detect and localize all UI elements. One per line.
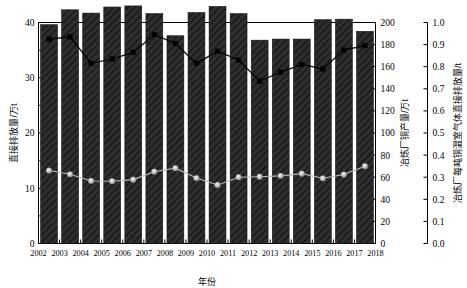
bar-series xyxy=(41,6,374,244)
production-marker xyxy=(321,67,326,72)
y-right2-ticklabel: 0.8 xyxy=(433,62,445,72)
y-axis-right2-title: 冶炼厂每吨铜温室气体直接排放量/t xyxy=(452,63,463,204)
bar xyxy=(251,40,268,243)
x-ticklabel: 2016 xyxy=(325,249,341,258)
y-right1-ticklabel: 20 xyxy=(381,217,391,227)
bar xyxy=(293,39,310,243)
intensity-marker xyxy=(320,175,326,181)
production-marker xyxy=(194,61,199,66)
intensity-marker xyxy=(173,165,179,171)
y-right2-ticklabel: 0.0 xyxy=(433,239,445,249)
intensity-marker xyxy=(278,173,284,179)
chart-svg: 0102030400204060801001201401601802000.00… xyxy=(0,0,467,288)
production-marker xyxy=(152,32,157,37)
x-ticklabel: 2006 xyxy=(115,249,131,258)
x-ticklabel: 2010 xyxy=(199,249,215,258)
y-right1-ticklabel: 120 xyxy=(381,106,396,116)
y-axis-left-title: 直接排放量/万t xyxy=(8,103,19,163)
bar xyxy=(41,25,58,244)
production-marker xyxy=(363,43,368,48)
x-ticklabel: 2017 xyxy=(346,249,362,258)
production-marker xyxy=(215,49,220,54)
x-ticklabel: 2005 xyxy=(94,249,110,258)
bar xyxy=(83,13,100,243)
production-marker xyxy=(68,35,73,40)
y-right2-ticklabel: 0.2 xyxy=(433,195,445,205)
production-marker xyxy=(342,48,347,53)
production-marker xyxy=(257,79,262,84)
intensity-marker xyxy=(88,178,94,184)
x-ticklabel: 2002 xyxy=(30,249,46,258)
x-axis-title: 年份 xyxy=(198,276,216,287)
intensity-marker xyxy=(236,174,242,180)
intensity-marker xyxy=(46,168,52,174)
bar xyxy=(188,13,205,244)
y-axis-right1-title: 冶炼厂铜产量/万t xyxy=(399,99,410,168)
production-marker xyxy=(89,61,94,66)
production-marker xyxy=(236,58,241,63)
x-ticklabel: 2003 xyxy=(51,249,67,258)
y-right2-ticklabel: 1.0 xyxy=(433,18,445,28)
production-marker xyxy=(110,57,115,62)
production-marker xyxy=(299,62,304,67)
bar xyxy=(125,6,142,244)
y-left-ticklabel: 30 xyxy=(25,73,35,83)
production-marker xyxy=(131,50,136,55)
y-right2-ticklabel: 0.4 xyxy=(433,151,445,161)
y-right1-ticklabel: 0 xyxy=(381,239,386,249)
production-marker xyxy=(173,41,178,46)
intensity-marker xyxy=(109,178,115,184)
x-ticklabel: 2007 xyxy=(136,249,152,258)
y-right2-ticklabel: 0.3 xyxy=(433,173,445,183)
y-right1-ticklabel: 140 xyxy=(381,84,396,94)
x-ticklabel: 2015 xyxy=(304,249,320,258)
y-right1-ticklabel: 200 xyxy=(381,18,396,28)
y-right2-ticklabel: 0.5 xyxy=(433,128,445,138)
y-left-ticklabel: 40 xyxy=(25,18,35,28)
x-ticklabel: 2013 xyxy=(262,249,278,258)
chart-container: 0102030400204060801001201401601802000.00… xyxy=(0,0,467,288)
y-left-ticklabel: 20 xyxy=(25,128,35,138)
y-right2-ticklabel: 0.1 xyxy=(433,217,445,227)
y-right1-ticklabel: 100 xyxy=(381,128,396,138)
y-axis-right-intensity: 0.00.10.20.30.40.50.60.70.80.91.0 xyxy=(424,18,445,249)
bar xyxy=(335,19,352,243)
intensity-marker xyxy=(67,171,73,177)
x-ticklabel: 2018 xyxy=(367,249,383,258)
intensity-marker xyxy=(215,182,221,188)
x-ticklabel: 2011 xyxy=(220,249,236,258)
x-ticklabel: 2014 xyxy=(283,249,299,258)
bar xyxy=(357,31,374,243)
x-ticklabel: 2009 xyxy=(178,249,194,258)
bar xyxy=(230,14,247,244)
intensity-marker xyxy=(299,171,305,177)
y-left-ticklabel: 10 xyxy=(25,184,35,194)
intensity-marker xyxy=(130,177,136,183)
x-ticklabel: 2008 xyxy=(157,249,173,258)
y-right1-ticklabel: 80 xyxy=(381,151,391,161)
intensity-marker xyxy=(151,169,157,175)
x-ticklabel: 2004 xyxy=(72,249,88,258)
y-right2-ticklabel: 0.7 xyxy=(433,84,445,94)
x-ticklabel: 2012 xyxy=(241,249,257,258)
bar xyxy=(314,20,331,244)
intensity-marker xyxy=(362,163,368,169)
y-right2-ticklabel: 0.9 xyxy=(433,40,445,50)
production-marker xyxy=(47,37,52,42)
y-axis-right-production: 020406080100120140160180200 xyxy=(371,18,396,249)
y-right1-ticklabel: 160 xyxy=(381,62,396,72)
intensity-marker xyxy=(341,172,347,178)
y-left-ticklabel: 0 xyxy=(30,239,35,249)
bar xyxy=(104,7,121,243)
y-right1-ticklabel: 40 xyxy=(381,195,391,205)
production-marker xyxy=(278,70,283,75)
y-right2-ticklabel: 0.6 xyxy=(433,106,445,116)
y-right1-ticklabel: 60 xyxy=(381,173,391,183)
intensity-marker xyxy=(257,174,263,180)
intensity-marker xyxy=(194,175,200,181)
y-right1-ticklabel: 180 xyxy=(381,40,396,50)
bar xyxy=(146,14,163,244)
bar xyxy=(209,6,226,243)
bar xyxy=(167,36,184,244)
